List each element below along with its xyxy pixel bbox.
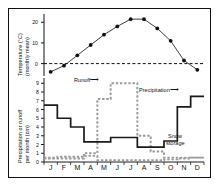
precipitation-tick-label: 0 <box>27 159 39 165</box>
precipitation-axis-title-line1: Precipitation or runoff <box>17 110 23 163</box>
month-label-m-2: M <box>71 164 83 171</box>
precipitation-tick-label: 9 <box>27 80 39 86</box>
runoff-annotation-label: Runoff <box>74 77 90 83</box>
precipitation-annotation: Precipitation⟶ <box>139 87 179 93</box>
temperature-data-point <box>142 17 146 21</box>
temperature-svg <box>44 14 204 76</box>
snow-storage-annotation-line1: Snow <box>168 133 182 139</box>
month-label-o-9: O <box>165 164 177 171</box>
precipitation-annotation-label: Precipitation <box>139 87 170 93</box>
precipitation-plot <box>44 78 204 162</box>
runoff-step-line <box>44 83 204 158</box>
temperature-tick-label: 0 <box>26 61 38 67</box>
precipitation-tick-label: 7 <box>27 98 39 104</box>
temperature-data-point <box>129 17 133 21</box>
temperature-data-point <box>49 70 53 74</box>
temperature-data-point <box>169 39 173 43</box>
figure-container: Temperature (°C) (monthly mean) Precipit… <box>0 0 221 188</box>
temperature-tick-label: 20 <box>26 19 38 25</box>
snow-storage-annotation-line2: storage <box>166 140 185 146</box>
temperature-data-point <box>102 33 106 37</box>
precipitation-arrow-icon: ⟶ <box>170 87 179 93</box>
temperature-data-point <box>75 53 79 57</box>
month-label-d-11: D <box>191 164 203 171</box>
temperature-tick-label: 10 <box>26 40 38 46</box>
month-label-j-0: J <box>45 164 57 171</box>
precipitation-tick-label: 8 <box>27 89 39 95</box>
month-label-j-5: J <box>111 164 123 171</box>
precipitation-tick-label: 1 <box>27 150 39 156</box>
month-label-f-1: F <box>58 164 70 171</box>
temperature-data-point <box>62 64 66 68</box>
temperature-data-point <box>89 43 93 47</box>
precipitation-tick-label: 6 <box>27 107 39 113</box>
month-label-m-4: M <box>98 164 110 171</box>
precipitation-tick-label: 2 <box>27 142 39 148</box>
temperature-plot <box>44 14 204 76</box>
precipitation-svg <box>44 78 204 162</box>
temperature-data-point <box>155 27 159 31</box>
temperature-data-point <box>195 68 199 72</box>
temperature-axis-title-line1: Temperature (°C) <box>17 33 23 76</box>
temperature-data-point <box>182 59 186 63</box>
month-label-a-3: A <box>85 164 97 171</box>
runoff-annotation: Runoff⟶ <box>74 77 99 83</box>
month-label-s-8: S <box>151 164 163 171</box>
runoff-arrow-icon: ⟶ <box>90 77 99 83</box>
month-label-j-6: J <box>125 164 137 171</box>
precipitation-tick-label: 3 <box>27 133 39 139</box>
month-label-n-10: N <box>178 164 190 171</box>
precipitation-tick-label: 5 <box>27 115 39 121</box>
precipitation-tick-label: 4 <box>27 124 39 130</box>
temperature-data-point <box>115 25 119 29</box>
month-label-a-7: A <box>138 164 150 171</box>
